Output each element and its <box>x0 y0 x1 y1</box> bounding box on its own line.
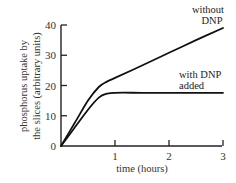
y-axis-title-line-2: the slices (arbitrary units) <box>31 32 43 140</box>
series-label-without-dnp-line-1: without <box>192 4 224 15</box>
y-axis-ticks: 010203040 <box>45 19 67 152</box>
y-tick-label: 20 <box>45 80 57 92</box>
x-axis-title: time (hours) <box>116 163 168 175</box>
y-axis-title: phosphorus uptake by the slices (arbitra… <box>18 32 43 140</box>
x-tick-label: 3 <box>220 150 226 162</box>
series-label-with-dnp-added: with DNP added <box>179 69 221 91</box>
x-tick-label: 1 <box>112 150 118 162</box>
series-label-with-dnp-line-2: added <box>179 80 205 91</box>
series-label-with-dnp-line-1: with DNP <box>179 69 221 80</box>
y-axis-title-line-1: phosphorus uptake by <box>18 39 29 132</box>
y-tick-label: 40 <box>45 19 57 31</box>
y-tick-label: 30 <box>45 49 57 61</box>
y-tick-label: 0 <box>51 140 57 152</box>
series-label-without-dnp-line-2: DNP <box>201 15 222 26</box>
y-tick-label: 10 <box>45 110 57 122</box>
series-label-without-dnp: without DNP <box>192 4 224 26</box>
x-tick-label: 2 <box>166 150 172 162</box>
series-line-with-dnp-added <box>61 93 223 146</box>
x-axis-ticks: 123 <box>112 140 226 162</box>
line-chart: phosphorus uptake by the slices (arbitra… <box>0 0 236 183</box>
